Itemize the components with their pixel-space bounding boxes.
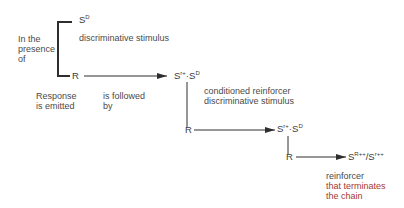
label-line: conditioned reinforcer (204, 86, 294, 96)
label-line: of (18, 54, 55, 64)
label-line-red: the chain (326, 191, 386, 201)
label-line: discriminative stimulus (204, 96, 294, 106)
label-line: is followed (103, 91, 145, 101)
label-terminal-reinforcer: reinforcer that terminates the chain (326, 171, 386, 201)
label-line: Response (36, 91, 77, 101)
label-line: presence (18, 44, 55, 54)
label-line: is emitted (36, 101, 77, 111)
label-response-emitted: Response is emitted (36, 91, 77, 111)
node-r3: R (286, 152, 293, 162)
terminal-sup2: r++ (375, 151, 384, 157)
label-line: In the (18, 34, 55, 44)
label-line: by (103, 101, 145, 111)
node-r2: R (185, 125, 192, 135)
label-line: that terminates (326, 181, 386, 191)
terminal-sup1: R++ (354, 151, 365, 157)
sd-sup: D (85, 14, 89, 20)
node-r1: R (72, 71, 79, 81)
link1-sup2: D (195, 70, 199, 76)
label-conditioned-reinforcer: conditioned reinforcer discriminative st… (204, 86, 294, 106)
node-sd: SD (79, 15, 90, 25)
label-discriminative-stimulus: discriminative stimulus (79, 33, 169, 43)
bracket-line (58, 22, 72, 76)
node-terminal: SR++/Sr++ (348, 152, 384, 162)
node-link1: Sr+·SD (174, 71, 200, 81)
label-is-followed-by: is followed by (103, 91, 145, 111)
link2-sup2: D (298, 123, 302, 129)
label-line: reinforcer (326, 171, 386, 181)
label-in-presence-of: In the presence of (18, 34, 55, 64)
node-link2: Sr+·SD (277, 124, 303, 134)
